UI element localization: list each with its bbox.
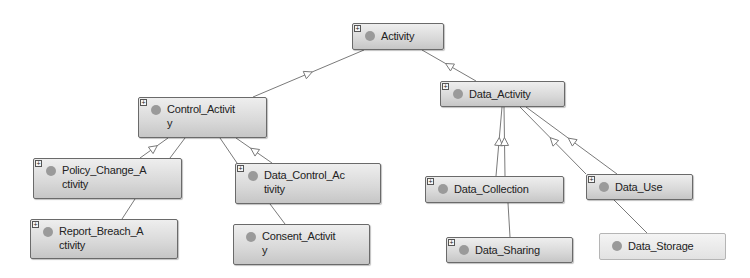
expand-plus-icon[interactable]: +: [588, 176, 595, 183]
class-circle-icon: [365, 31, 375, 41]
expand-plus-icon[interactable]: +: [442, 83, 449, 90]
subclass-arrow-icon: [251, 148, 260, 156]
class-node-control-activity[interactable]: +Control_Activity: [138, 97, 267, 138]
class-label-line: Report_Breach_A: [59, 224, 173, 238]
edge-data_use-to-data_storage: [614, 200, 647, 233]
class-node-data-activity[interactable]: +Data_Activity: [440, 81, 565, 107]
class-circle-icon: [246, 232, 256, 242]
expand-plus-icon[interactable]: +: [35, 160, 42, 167]
class-circle-icon: [151, 105, 161, 115]
class-node-data-use[interactable]: +Data_Use: [586, 174, 693, 200]
subclass-arrow-icon: [446, 64, 455, 71]
class-node-policy-change-activity[interactable]: +Policy_Change_Activity: [33, 158, 182, 199]
expand-plus-icon[interactable]: +: [354, 25, 361, 32]
edge-policy_change_activity-to-report_breach_activity: [122, 199, 135, 219]
class-node-consent-activity[interactable]: Consent_Activity: [233, 224, 370, 265]
edge-control_activity-to-policy_change_activity: [170, 138, 185, 158]
class-label: Data_Use: [615, 180, 688, 194]
class-circle-icon: [459, 245, 469, 255]
expand-plus-icon[interactable]: +: [140, 99, 147, 106]
class-hierarchy-canvas: +Activity+Control_Activity+Data_Activity…: [0, 0, 750, 278]
expand-plus-icon[interactable]: +: [448, 239, 455, 246]
class-label-line: tivity: [264, 182, 376, 196]
class-label: Report_Breach_Activity: [59, 224, 173, 252]
class-label-line: y: [167, 116, 262, 130]
edge-control_activity-to-data_control_activity: [220, 138, 237, 163]
class-label: Data_Sharing: [475, 243, 568, 257]
class-label-line: Consent_Activit: [262, 229, 365, 243]
class-node-data-collection[interactable]: +Data_Collection: [425, 176, 564, 203]
class-label-line: ctivity: [62, 177, 177, 191]
subclass-arrow-icon: [303, 71, 312, 78]
class-label-line: Policy_Change_A: [62, 163, 177, 177]
class-circle-icon: [46, 166, 56, 176]
class-circle-icon: [438, 184, 448, 194]
subclass-arrow-icon: [568, 138, 577, 146]
expand-plus-icon[interactable]: +: [32, 221, 39, 228]
edge-data_collection-to-data_sharing: [508, 203, 510, 237]
class-node-data-sharing[interactable]: +Data_Sharing: [446, 237, 573, 263]
class-label-line: y: [262, 243, 365, 257]
class-label: Consent_Activity: [262, 229, 365, 257]
expand-plus-icon[interactable]: +: [237, 165, 244, 172]
edge-data_control_activity-to-consent_activity: [270, 204, 285, 224]
class-label: Activity: [381, 29, 439, 43]
class-label: Policy_Change_Activity: [62, 163, 177, 191]
subclass-arrow-icon: [148, 146, 157, 154]
class-circle-icon: [599, 182, 609, 192]
class-label-line: Data_Control_Ac: [264, 168, 376, 182]
class-label: Control_Activity: [167, 102, 262, 130]
class-label: Data_Collection: [454, 182, 559, 196]
class-circle-icon: [43, 227, 53, 237]
class-node-activity[interactable]: +Activity: [352, 23, 444, 50]
class-label-line: Control_Activit: [167, 102, 262, 116]
class-label: Data_Control_Activity: [264, 168, 376, 196]
class-label: Data_Activity: [469, 87, 560, 101]
class-label: Data_Storage: [628, 239, 721, 253]
class-node-report-breach-activity[interactable]: +Report_Breach_Activity: [30, 219, 178, 259]
class-node-data-control-activity[interactable]: +Data_Control_Activity: [235, 163, 381, 204]
expand-plus-icon[interactable]: +: [427, 178, 434, 185]
class-circle-icon: [248, 171, 258, 181]
class-node-data-storage[interactable]: Data_Storage: [599, 233, 726, 260]
class-label-line: ctivity: [59, 238, 173, 252]
class-circle-icon: [453, 89, 463, 99]
class-circle-icon: [612, 241, 622, 251]
subclass-arrow-icon: [501, 138, 509, 146]
